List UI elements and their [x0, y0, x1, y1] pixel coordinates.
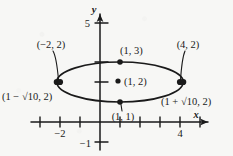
- label-vertex-left: (1 − √10, 2): [2, 91, 53, 103]
- y-axis-name: y: [90, 4, 97, 15]
- label-vertex-right: (1 + √10, 2): [161, 96, 212, 108]
- tick-label-x-4: 4: [177, 128, 183, 139]
- tick-label-y-5: 5: [85, 18, 90, 29]
- label-covertex-bottom: (1, 1): [112, 111, 135, 123]
- label-vertex-right-group: (1 + √10, 2): [161, 96, 212, 108]
- point-vertex-right: [180, 79, 186, 85]
- point-focus-left: [57, 79, 63, 85]
- tick-label-x-neg2: −2: [54, 128, 65, 139]
- leader-line-focus-right: [181, 51, 186, 80]
- label-focus-left: (−2, 2): [37, 39, 66, 51]
- point-covertex-top: [117, 59, 123, 65]
- label-focus-right: (4, 2): [177, 39, 200, 51]
- label-center: (1, 2): [124, 76, 147, 88]
- graph-canvas: (−2, 2) (1, 3) (4, 2) (1, 2) (1, 1) (1 −…: [0, 0, 233, 156]
- tick-label-y-neg1: −1: [80, 138, 91, 149]
- point-covertex-bottom: [117, 99, 123, 105]
- point-center: [115, 78, 120, 83]
- label-covertex-top: (1, 3): [120, 45, 143, 57]
- x-axis-name: x: [192, 109, 198, 120]
- ellipse-figure: (−2, 2) (1, 3) (4, 2) (1, 2) (1, 1) (1 −…: [0, 0, 233, 156]
- label-vertex-left-group: (1 − √10, 2): [2, 91, 53, 103]
- y-tick-marks: [95, 23, 108, 142]
- leader-line-focus-left: [53, 51, 59, 80]
